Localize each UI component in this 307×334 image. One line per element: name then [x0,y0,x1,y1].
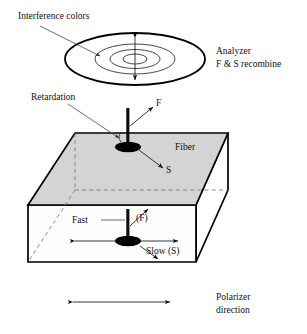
analyzer-label-line1: Analyzer [216,46,252,56]
s-top-label: S [166,165,171,175]
analyzer-callout: Analyzer F & S recombine [216,46,281,69]
interference-colors-callout: Interference colors [18,11,100,56]
leader-arrow-icon [40,26,100,56]
analyzer-field-group [65,33,205,85]
fast-label: Fast [72,215,88,225]
retardation-label: Retardation [31,92,76,102]
analyzer-label-line2: F & S recombine [216,59,281,69]
polarizer-label-line2: direction [216,305,250,315]
retardation-diagram: Interference colors Analyzer F & S recom… [0,0,307,334]
arrow-up-right-icon [130,107,153,126]
slow-front-label: Slow (S) [146,246,180,257]
interference-colors-label: Interference colors [18,11,90,21]
polarizer-label-line1: Polarizer [216,292,251,302]
f-top-label: F [156,98,161,108]
fiber-label: Fiber [175,142,196,152]
polarizer-direction-group: Polarizer direction [73,292,251,315]
fiber-point-top [115,142,141,152]
f-front-label: (F) [136,213,148,224]
figure-root: Interference colors Analyzer F & S recom… [0,0,307,334]
